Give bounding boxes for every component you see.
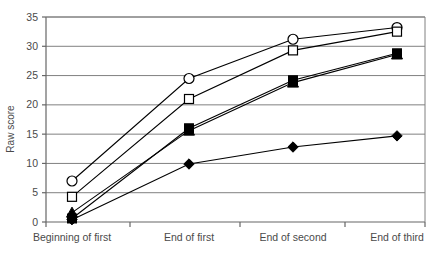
y-axis-tick-labels: 05101520253035 bbox=[26, 11, 38, 228]
x-category-label: End of first bbox=[164, 231, 214, 243]
x-category-label: End of third bbox=[370, 231, 424, 243]
data-point-open-square bbox=[393, 27, 402, 36]
data-point-open-circle bbox=[184, 74, 194, 84]
y-tick-label: 25 bbox=[26, 69, 38, 81]
data-point-open-square bbox=[289, 46, 298, 55]
y-tick-label: 15 bbox=[26, 128, 38, 140]
y-tick-label: 10 bbox=[26, 157, 38, 169]
series-markers bbox=[67, 23, 403, 225]
data-point-open-circle bbox=[288, 34, 298, 44]
series-line-open-square bbox=[72, 32, 397, 197]
data-point-open-square bbox=[185, 95, 194, 104]
grid-lines bbox=[46, 17, 425, 193]
x-category-label: End of second bbox=[259, 231, 326, 243]
series-lines bbox=[72, 28, 397, 220]
x-category-label: Beginning of first bbox=[33, 231, 111, 243]
data-point-open-circle bbox=[67, 176, 77, 186]
y-tick-label: 5 bbox=[32, 186, 38, 198]
y-tick-label: 35 bbox=[26, 11, 38, 23]
chart-container: 05101520253035 Beginning of firstEnd of … bbox=[0, 0, 435, 257]
x-axis-ticks bbox=[46, 222, 425, 227]
y-tick-label: 30 bbox=[26, 40, 38, 52]
y-tick-label: 20 bbox=[26, 98, 38, 110]
y-tick-label: 0 bbox=[32, 216, 38, 228]
y-axis-title: Raw score bbox=[5, 105, 16, 153]
series-line-filled-diamond bbox=[72, 136, 397, 220]
series-line-open-circle bbox=[72, 28, 397, 181]
data-point-filled-diamond bbox=[392, 131, 402, 141]
data-point-open-square bbox=[68, 192, 77, 201]
data-point-filled-diamond bbox=[288, 142, 298, 152]
line-chart: 05101520253035 Beginning of firstEnd of … bbox=[0, 0, 435, 257]
x-axis-category-labels: Beginning of firstEnd of firstEnd of sec… bbox=[33, 231, 424, 243]
data-point-filled-diamond bbox=[184, 159, 194, 169]
